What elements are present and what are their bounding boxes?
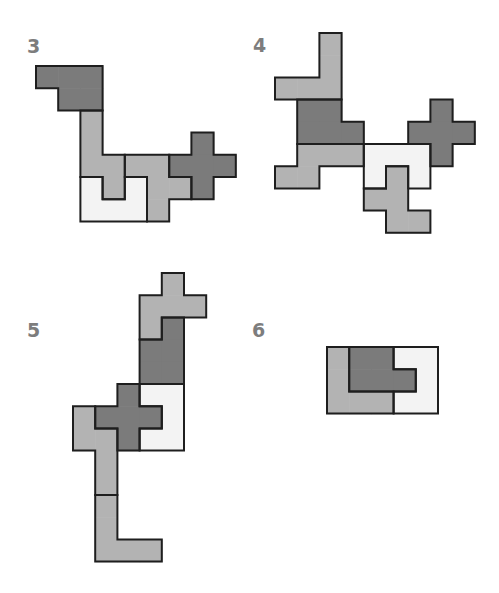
figure-3 [36,66,236,222]
piece-medium [275,33,342,100]
figure-6 [327,347,439,414]
piece-medium [95,495,162,562]
figure-5 [73,273,207,562]
figure-4 [275,33,475,233]
polyomino-figures [0,0,499,593]
